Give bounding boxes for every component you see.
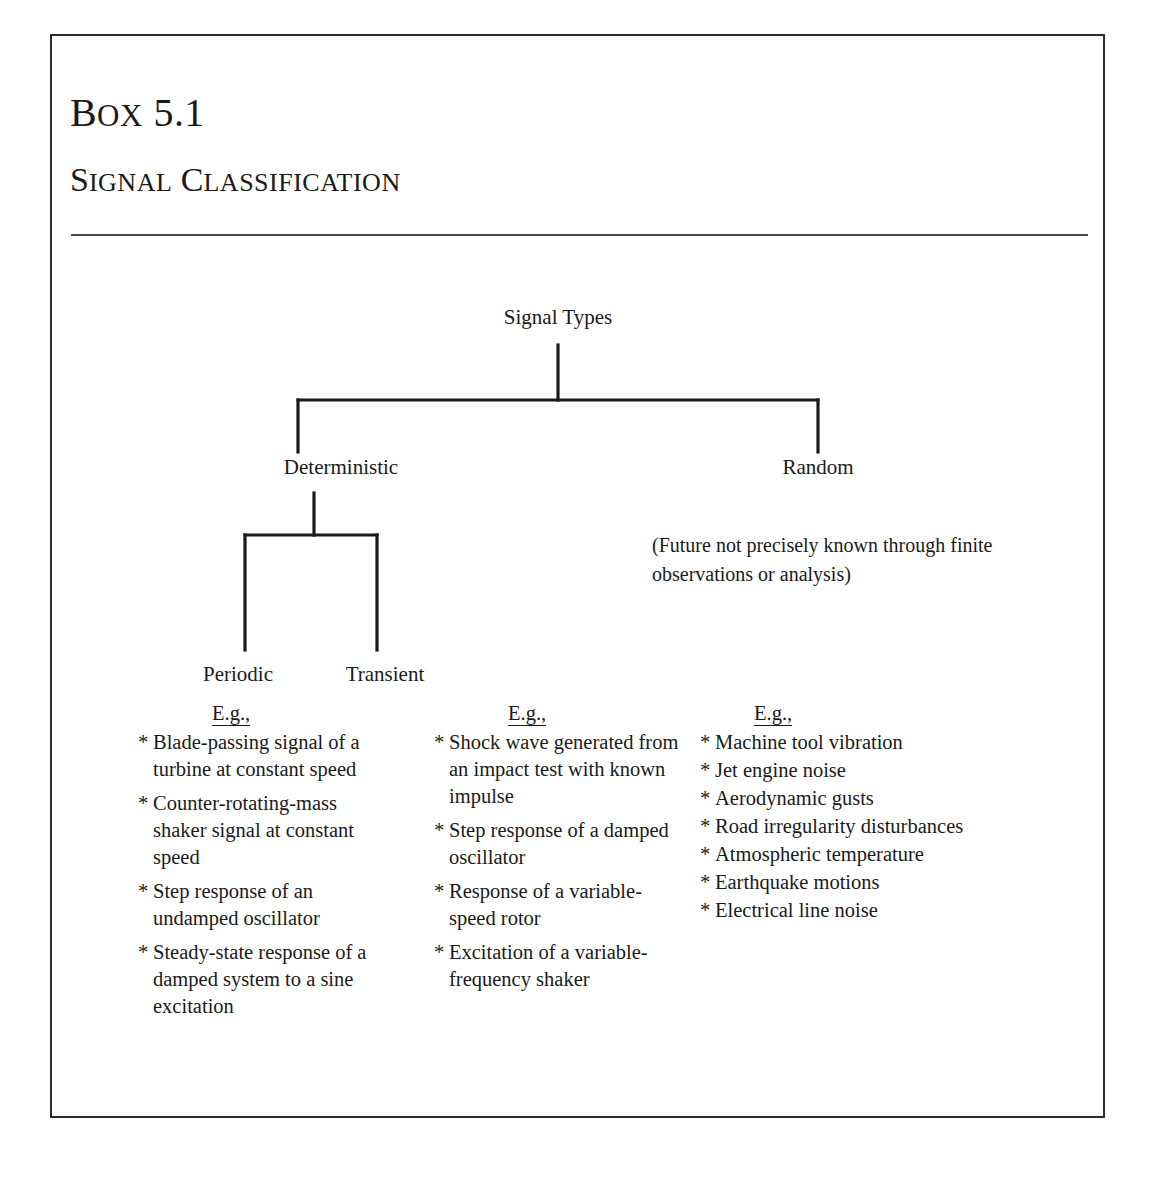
example-item: *Earthquake motions — [700, 869, 1000, 896]
example-item: *Aerodynamic gusts — [700, 785, 1000, 812]
examples-column-random: E.g., *Machine tool vibration*Jet engine… — [700, 700, 1000, 924]
examples-list-random: *Machine tool vibration*Jet engine noise… — [700, 729, 1000, 924]
example-item: *Shock wave generated from an impact tes… — [434, 729, 686, 810]
example-item-text: Machine tool vibration — [715, 729, 1000, 756]
example-item-text: Step response of a damped oscillator — [449, 817, 686, 871]
tree-node-signal-types: Signal Types — [488, 305, 628, 330]
asterisk-bullet-icon: * — [700, 757, 715, 784]
example-item-text: Response of a variable-speed rotor — [449, 878, 686, 932]
example-item-text: Aerodynamic gusts — [715, 785, 1000, 812]
asterisk-bullet-icon: * — [138, 729, 153, 783]
example-item: *Electrical line noise — [700, 897, 1000, 924]
example-item-text: Steady-state response of a damped system… — [153, 939, 390, 1020]
example-item: *Response of a variable-speed rotor — [434, 878, 686, 932]
asterisk-bullet-icon: * — [700, 869, 715, 896]
tree-node-transient: Transient — [320, 662, 450, 687]
example-item-text: Counter-rotating-mass shaker signal at c… — [153, 790, 390, 871]
asterisk-bullet-icon: * — [700, 785, 715, 812]
examples-list-periodic: *Blade-passing signal of a turbine at co… — [138, 729, 390, 1020]
examples-column-transient: E.g., *Shock wave generated from an impa… — [434, 700, 686, 993]
examples-list-transient: *Shock wave generated from an impact tes… — [434, 729, 686, 993]
asterisk-bullet-icon: * — [700, 729, 715, 756]
example-item-text: Electrical line noise — [715, 897, 1000, 924]
example-item: *Excitation of a variable-frequency shak… — [434, 939, 686, 993]
asterisk-bullet-icon: * — [700, 813, 715, 840]
box-title-text: SIGNAL CLASSIFICATION — [70, 161, 401, 198]
asterisk-bullet-icon: * — [434, 729, 449, 810]
title-divider — [71, 234, 1088, 236]
asterisk-bullet-icon: * — [434, 939, 449, 993]
example-item: *Step response of an undamped oscillator — [138, 878, 390, 932]
example-item-text: Shock wave generated from an impact test… — [449, 729, 686, 810]
box-number-text: BOX 5.1 — [70, 90, 205, 135]
example-item-text: Jet engine noise — [715, 757, 1000, 784]
example-item: *Blade-passing signal of a turbine at co… — [138, 729, 390, 783]
asterisk-bullet-icon: * — [700, 897, 715, 924]
tree-node-random: Random — [758, 455, 878, 480]
tree-node-deterministic: Deterministic — [248, 455, 434, 480]
example-item: *Road irregularity disturbances — [700, 813, 1000, 840]
example-item-text: Road irregularity disturbances — [715, 813, 1000, 840]
examples-heading-transient: E.g., — [434, 700, 686, 727]
asterisk-bullet-icon: * — [434, 817, 449, 871]
example-item-text: Step response of an undamped oscillator — [153, 878, 390, 932]
example-item: *Atmospheric temperature — [700, 841, 1000, 868]
example-item: *Counter-rotating-mass shaker signal at … — [138, 790, 390, 871]
examples-heading-random: E.g., — [700, 700, 1000, 727]
example-item-text: Blade-passing signal of a turbine at con… — [153, 729, 390, 783]
tree-node-periodic: Periodic — [178, 662, 298, 687]
page-title: SIGNAL CLASSIFICATION — [70, 162, 401, 198]
example-item: *Steady-state response of a damped syste… — [138, 939, 390, 1020]
asterisk-bullet-icon: * — [138, 939, 153, 1020]
asterisk-bullet-icon: * — [138, 878, 153, 932]
example-item: *Step response of a damped oscillator — [434, 817, 686, 871]
example-item-text: Earthquake motions — [715, 869, 1000, 896]
random-definition-note: (Future not precisely known through fini… — [652, 531, 1052, 589]
example-item-text: Atmospheric temperature — [715, 841, 1000, 868]
examples-column-periodic: E.g., *Blade-passing signal of a turbine… — [138, 700, 390, 1021]
box-number-heading: BOX 5.1 — [70, 92, 205, 134]
asterisk-bullet-icon: * — [138, 790, 153, 871]
asterisk-bullet-icon: * — [434, 878, 449, 932]
example-item: *Jet engine noise — [700, 757, 1000, 784]
asterisk-bullet-icon: * — [700, 841, 715, 868]
example-item-text: Excitation of a variable-frequency shake… — [449, 939, 686, 993]
examples-heading-periodic: E.g., — [138, 700, 390, 727]
example-item: *Machine tool vibration — [700, 729, 1000, 756]
